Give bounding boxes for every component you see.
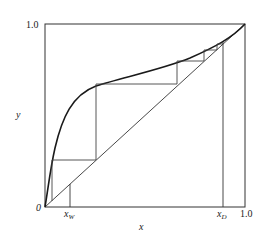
y-top-tick-label: 1.0 [26,20,39,30]
xw-label: xW [64,209,74,221]
xw-label-sub: W [68,213,74,221]
x-axis-label: x [139,222,143,232]
diagonal-line [45,24,245,207]
xd-label: xD [217,209,227,221]
xd-label-sub: D [221,213,226,221]
x-right-tick-label: 1.0 [240,209,253,219]
y-axis-label: y [16,110,20,120]
origin-label: 0 [36,203,41,213]
